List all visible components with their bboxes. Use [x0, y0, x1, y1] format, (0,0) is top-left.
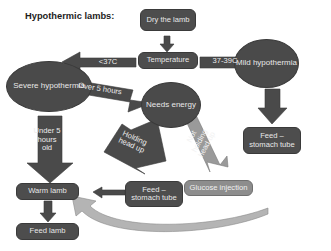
node-severe-hypothermia[interactable]: Severe hypothermia	[6, 61, 92, 112]
node-glucose-injection[interactable]: Glucose injection	[184, 180, 253, 196]
node-dry-the-lamb[interactable]: Dry the lamb	[140, 9, 196, 31]
node-needs-energy[interactable]: Needs energy	[141, 82, 201, 128]
node-temperature[interactable]: Temperature	[138, 52, 198, 69]
node-feed-lamb[interactable]: Feed lamb	[16, 223, 79, 240]
arrow-under-5-hours-old	[27, 116, 73, 183]
arrow-warm-to-feed-lamb	[40, 201, 56, 222]
arrow-not-holding-head-up	[186, 115, 228, 172]
page-title: Hypothermic lambs:	[25, 11, 117, 23]
node-warm-lamb[interactable]: Warm lamb	[16, 183, 79, 200]
arrow-dry-to-temperature	[160, 36, 174, 52]
arrow-feed-to-warm-lamb	[93, 187, 125, 198]
arrow-holding-head-up	[104, 119, 166, 174]
node-feed-stomach-tube-mid[interactable]: Feed – stomach tube	[125, 181, 183, 207]
arrow-mild-to-feed	[258, 89, 287, 124]
node-mild-hypothermia[interactable]: Mild hypothermia	[234, 39, 299, 88]
diagram-canvas: Hypothermic lambs: Dry the lamb Temperat…	[0, 0, 331, 251]
node-feed-stomach-tube-right[interactable]: Feed – stomach tube	[243, 127, 301, 154]
